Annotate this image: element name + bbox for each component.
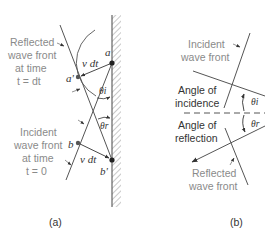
- label-vdt-top: v dt: [82, 57, 99, 69]
- theta-r-angle-arc: [243, 115, 245, 132]
- caption-a: (a): [49, 216, 62, 228]
- panel-a: Reflected wave front at time t = dt Inci…: [7, 15, 121, 228]
- incident-wavefront-label-line2: wave front: [180, 51, 230, 63]
- angle-incidence-label-line1: Angle of: [178, 84, 217, 96]
- point-b-prime: [109, 157, 114, 162]
- theta-i-angle-arc: [243, 94, 245, 111]
- leader-incident: [78, 120, 84, 124]
- label-theta-i-b: θi: [251, 97, 259, 107]
- label-vdt-bottom: v dt: [80, 153, 97, 165]
- point-b: [76, 141, 80, 145]
- angle-incidence-label-line2: incidence: [175, 97, 220, 109]
- label-a: a: [105, 46, 111, 58]
- incident-label-line2: wave front: [13, 139, 63, 151]
- incident-label-line4: t = 0: [26, 165, 47, 177]
- reflected-label-line1: Reflected: [10, 36, 55, 48]
- incident-wavefront-label-line1: Incident: [188, 38, 225, 50]
- label-b-prime: b': [100, 165, 109, 177]
- leader-incident-b: [233, 44, 240, 47]
- label-a-prime: a': [66, 72, 75, 84]
- incident-label-line3: at time: [22, 152, 54, 164]
- leader-incident-2: [65, 160, 71, 165]
- caption-b: (b): [230, 216, 243, 228]
- reflected-wavefront-label-line1: Reflected: [192, 167, 237, 179]
- label-b: b: [68, 138, 74, 150]
- reflected-label-line4: t = dt: [17, 75, 41, 87]
- angle-reflection-label-line2: reflection: [175, 132, 218, 144]
- label-theta-r: θr: [100, 121, 109, 131]
- reflection-diagram: Reflected wave front at time t = dt Inci…: [0, 0, 265, 242]
- label-theta-r-b: θr: [251, 119, 260, 129]
- leader-reflected: [57, 43, 64, 46]
- point-a: [109, 60, 114, 65]
- theta-r-arc: [98, 117, 110, 119]
- point-a-prime: [76, 75, 80, 79]
- label-theta-i: θi: [99, 86, 107, 96]
- mirror-wall-hatching: [112, 15, 121, 207]
- reflected-wavefront-label-line2: wave front: [188, 180, 238, 192]
- panel-b: Incident wave front Angle of incidence A…: [175, 33, 265, 228]
- leader-reflected-2: [72, 89, 80, 92]
- reflected-label-line3: at time: [15, 62, 47, 74]
- incident-wavefront: [224, 33, 250, 108]
- angle-reflection-label-line1: Angle of: [178, 119, 217, 131]
- reflected-label-line2: wave front: [7, 49, 57, 61]
- leader-reflected-b: [230, 158, 234, 165]
- incident-label-line1: Incident: [20, 126, 57, 138]
